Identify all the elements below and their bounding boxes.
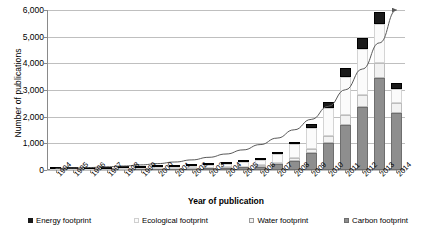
y-axis-tick-labels: 01,0002,0003,0004,0005,0006,000 [0,10,44,170]
y-axis-tick-label: 1,000 [2,139,44,147]
y-axis-tick-label: 4,000 [2,59,44,67]
water-swatch-icon [249,218,254,223]
legend-item[interactable]: Water footprint [249,216,344,225]
legend-label: Energy footprint [36,216,91,225]
y-axis-tick-label: 6,000 [2,6,44,14]
ecological-swatch-icon [134,218,139,223]
legend-item[interactable]: Energy footprint [28,216,134,225]
energy-swatch-icon [28,218,33,223]
y-axis-tick-label: 5,000 [2,33,44,41]
legend-label: Water footprint [257,216,308,225]
chart-legend: Energy footprintEcological footprintWate… [28,214,408,226]
trend-line [47,10,405,170]
publications-stacked-bar-chart: Number of publications 01,0002,0003,0004… [0,0,421,243]
plot-area [47,10,405,170]
legend-item[interactable]: Ecological footprint [134,216,249,225]
legend-label: Carbon footprint [352,216,408,225]
legend-item[interactable]: Carbon footprint [344,216,408,225]
y-axis-tick-label: 0 [2,166,44,174]
y-axis-tick-label: 3,000 [2,86,44,94]
legend-label: Ecological footprint [142,216,208,225]
x-axis-title: Year of publication [47,196,405,206]
x-axis-tick-labels: 1994199519961997199819992000200120022003… [47,172,405,198]
carbon-swatch-icon [344,218,349,223]
y-axis-tick-label: 2,000 [2,113,44,121]
